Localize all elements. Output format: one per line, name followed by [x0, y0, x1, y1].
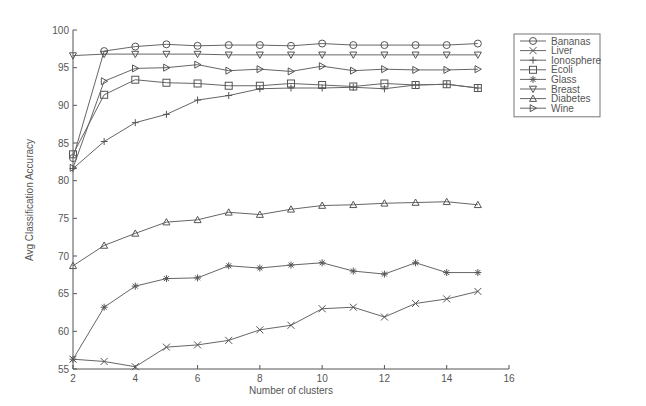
x-tick-label: 16: [503, 373, 515, 384]
series-line: [73, 291, 478, 366]
y-tick-label: 55: [58, 364, 70, 375]
series-line: [73, 44, 478, 159]
y-tick-label: 95: [58, 62, 70, 73]
plus-marker-icon: [225, 92, 232, 99]
y-tick-label: 70: [58, 251, 70, 262]
y-tick-label: 65: [58, 288, 70, 299]
y-tick-label: 100: [52, 25, 69, 36]
series-ionosphere: [70, 81, 482, 172]
x-tick-label: 2: [70, 373, 76, 384]
series-liver: [70, 288, 482, 370]
x-marker-icon: [381, 314, 388, 321]
x-axis-label: Number of clusters: [249, 385, 333, 396]
star-marker-icon: [225, 262, 232, 269]
series-diabetes: [70, 198, 482, 268]
series-bananas: [70, 40, 482, 162]
star-marker-icon: [132, 283, 139, 290]
x-tick-label: 10: [317, 373, 329, 384]
y-tick-label: 90: [58, 100, 70, 111]
y-axis-label: Avg Classification Accuracy: [24, 139, 35, 261]
series-glass: [70, 259, 482, 362]
star-marker-icon: [288, 262, 295, 269]
plus-marker-icon: [132, 119, 139, 126]
y-tick-label: 75: [58, 213, 70, 224]
star-marker-icon: [474, 269, 481, 276]
star-marker-icon: [443, 269, 450, 276]
star-marker-icon: [163, 275, 170, 282]
y-tick-label: 80: [58, 175, 70, 186]
plus-marker-icon: [163, 111, 170, 118]
x-marker-icon: [474, 288, 481, 295]
y-tick-label: 60: [58, 326, 70, 337]
star-marker-icon: [256, 265, 263, 272]
line-chart: 556065707580859095100246810121416 Number…: [0, 0, 646, 406]
legend-label: Wine: [551, 103, 574, 114]
x-tick-label: 8: [257, 373, 263, 384]
series-line: [73, 202, 478, 266]
legend: BananasLiverIonosphereEcoliGlassBreastDi…: [514, 34, 601, 117]
star-marker-icon: [530, 76, 537, 83]
series-breast: [70, 51, 482, 59]
star-marker-icon: [319, 259, 326, 266]
x-tick-label: 12: [379, 373, 391, 384]
x-tick-label: 4: [133, 373, 139, 384]
plus-marker-icon: [194, 97, 201, 104]
star-marker-icon: [381, 271, 388, 278]
series-line: [73, 84, 478, 168]
series-line: [73, 263, 478, 359]
star-marker-icon: [412, 259, 419, 266]
star-marker-icon: [350, 268, 357, 275]
series-line: [73, 80, 478, 155]
star-marker-icon: [70, 356, 77, 363]
x-tick-label: 14: [441, 373, 453, 384]
plus-marker-icon: [381, 85, 388, 92]
y-tick-label: 85: [58, 138, 70, 149]
x-tick-label: 6: [195, 373, 201, 384]
plus-marker-icon: [288, 85, 295, 92]
series-group: [70, 40, 482, 370]
star-marker-icon: [101, 304, 108, 311]
star-marker-icon: [194, 274, 201, 281]
